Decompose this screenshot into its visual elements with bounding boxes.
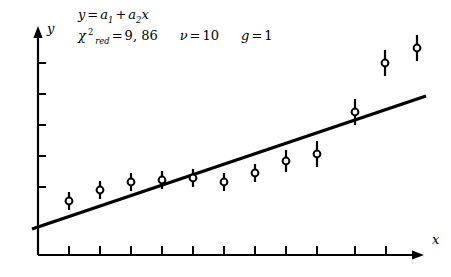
data-marker — [66, 198, 73, 205]
data-marker — [190, 175, 197, 182]
data-marker — [382, 60, 389, 67]
data-marker — [97, 187, 104, 194]
data-marker — [221, 179, 228, 186]
data-marker — [252, 170, 259, 177]
data-marker — [414, 45, 421, 52]
figure-canvas: y=a1+a2x χ2red=9, 86ν=10g=1 y x — [0, 0, 451, 277]
data-marker — [283, 158, 290, 165]
plot-background — [0, 0, 451, 277]
data-marker — [352, 109, 359, 116]
data-marker — [159, 177, 166, 184]
data-marker — [314, 151, 321, 158]
data-marker — [128, 179, 135, 186]
plot-svg — [0, 0, 451, 277]
